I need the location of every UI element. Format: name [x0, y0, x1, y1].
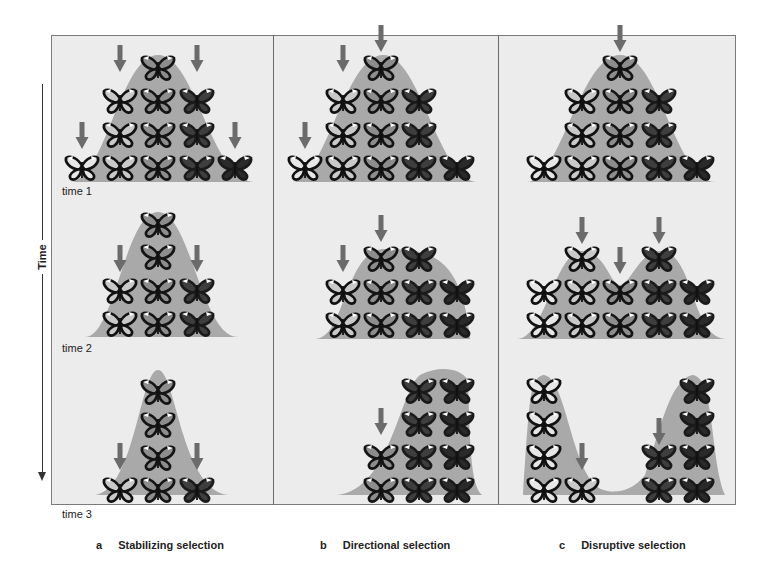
- caption-c: cDisruptive selection: [559, 539, 686, 551]
- caption-a-letter: a: [96, 539, 102, 551]
- butterfly-icon: [181, 89, 213, 113]
- time-label-2: time 2: [62, 342, 92, 354]
- butterfly-icon: [327, 280, 359, 304]
- selection-arrow-icon: [114, 45, 127, 72]
- selection-arrow-icon: [614, 25, 627, 52]
- butterfly-icon: [528, 280, 560, 304]
- butterfly-icon: [327, 89, 359, 113]
- butterfly-icon: [441, 156, 473, 180]
- caption-b: bDirectional selection: [320, 539, 450, 551]
- caption-b-title: Directional selection: [343, 539, 451, 551]
- selection-arrow-icon: [375, 25, 388, 52]
- selection-arrow-icon: [375, 408, 388, 435]
- caption-b-letter: b: [320, 539, 327, 551]
- butterfly-icon: [104, 89, 136, 113]
- butterfly-icon: [219, 156, 251, 180]
- selection-arrow-icon: [337, 245, 350, 272]
- selection-arrow-icon: [299, 122, 312, 149]
- butterfly-icon: [604, 280, 636, 304]
- caption-c-title: Disruptive selection: [581, 539, 686, 551]
- selection-arrow-icon: [229, 122, 242, 149]
- selection-illustration: time 1 time 2 time 3: [0, 0, 770, 566]
- butterfly-icon: [365, 445, 397, 469]
- selection-arrow-icon: [614, 247, 627, 274]
- butterfly-icon: [403, 89, 435, 113]
- butterfly-icon: [643, 89, 675, 113]
- butterfly-icon: [403, 247, 435, 271]
- butterfly-icon: [289, 156, 321, 180]
- selection-arrow-icon: [653, 217, 666, 244]
- butterfly-icon: [566, 247, 598, 271]
- butterfly-icon: [566, 89, 598, 113]
- selection-arrow-icon: [337, 45, 350, 72]
- time-label-3: time 3: [62, 508, 92, 520]
- caption-a: aStabilizing selection: [96, 539, 224, 551]
- selection-arrow-icon: [191, 45, 204, 72]
- butterfly-icon: [66, 156, 98, 180]
- caption-c-letter: c: [559, 539, 565, 551]
- butterfly-icon: [643, 247, 675, 271]
- butterfly-icon: [681, 280, 713, 304]
- caption-a-title: Stabilizing selection: [118, 539, 224, 551]
- time-label-1: time 1: [62, 185, 92, 197]
- selection-arrow-icon: [375, 215, 388, 242]
- butterfly-icon: [681, 156, 713, 180]
- selection-arrow-icon: [576, 217, 589, 244]
- butterfly-icon: [528, 156, 560, 180]
- selection-arrow-icon: [76, 122, 89, 149]
